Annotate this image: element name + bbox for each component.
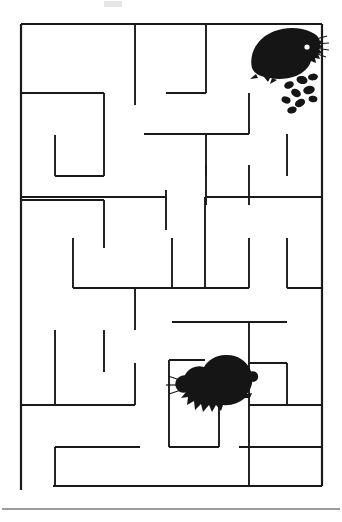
maze-interior-walls — [21, 24, 322, 486]
food-pellets — [281, 73, 319, 115]
food-pellet-4 — [302, 85, 315, 96]
food-pellet-1 — [296, 75, 309, 85]
food-pellet-2 — [308, 73, 319, 81]
food-pellet-5 — [281, 95, 292, 104]
food-pellet-8 — [286, 105, 297, 114]
food-pellet-3 — [290, 87, 303, 99]
hedgehog-center — [166, 355, 258, 412]
food-pellet-6 — [293, 97, 306, 109]
food-pellet-0 — [283, 80, 295, 90]
maze-canvas — [0, 0, 342, 522]
top-smudge-artifact — [104, 1, 122, 7]
maze-page — [0, 0, 342, 522]
food-pellet-7 — [308, 95, 318, 103]
